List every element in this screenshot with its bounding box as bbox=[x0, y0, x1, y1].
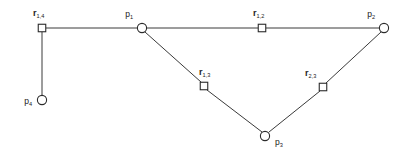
edge-r23-p2 bbox=[326, 32, 381, 83]
node-p1[interactable] bbox=[137, 23, 146, 32]
node-r23[interactable] bbox=[319, 83, 327, 91]
label-p4: p4 bbox=[24, 96, 32, 107]
node-r13[interactable] bbox=[200, 82, 208, 90]
label-r13: r1,3 bbox=[199, 67, 210, 78]
label-r14: r1,4 bbox=[33, 8, 44, 19]
edge-r13-p3 bbox=[207, 90, 262, 132]
edge-p1-r13 bbox=[145, 32, 201, 82]
label-p3: p3 bbox=[275, 137, 283, 148]
node-layer bbox=[37, 23, 388, 140]
node-r14[interactable] bbox=[38, 24, 46, 32]
node-p2[interactable] bbox=[379, 23, 388, 32]
node-p3[interactable] bbox=[260, 131, 269, 140]
label-r12: r1,2 bbox=[253, 8, 264, 19]
label-p1: p1 bbox=[125, 9, 133, 20]
label-layer: r1,4 r1,2 r1,3 r2,3 p1 p2 p3 p4 bbox=[24, 8, 375, 148]
edge-p3-r23 bbox=[269, 91, 320, 132]
label-r23: r2,3 bbox=[305, 68, 316, 79]
node-r12[interactable] bbox=[258, 24, 266, 32]
node-p4[interactable] bbox=[37, 95, 46, 104]
edge-layer bbox=[42, 28, 381, 132]
diagram-canvas: r1,4 r1,2 r1,3 r2,3 p1 p2 p3 p4 bbox=[0, 0, 406, 157]
label-p2: p2 bbox=[367, 9, 375, 20]
graph-svg: r1,4 r1,2 r1,3 r2,3 p1 p2 p3 p4 bbox=[0, 0, 406, 157]
